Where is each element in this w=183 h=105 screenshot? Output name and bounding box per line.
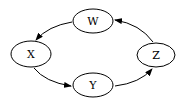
node-y-label: Y [88,79,97,92]
edge-y-to-z [115,69,152,86]
node-x-label: X [27,48,35,61]
edge-w-to-x [36,22,72,40]
diagram-svg: W X Y Z [0,0,183,105]
node-z-label: Z [152,49,160,62]
node-y: Y [73,73,113,97]
diagram-canvas: W X Y Z [0,0,183,105]
node-z: Z [137,43,175,67]
node-w-label: W [87,15,99,28]
edge-z-to-w [115,20,153,42]
node-w: W [73,9,113,33]
edge-x-to-y [34,68,71,86]
node-x: X [11,41,51,67]
